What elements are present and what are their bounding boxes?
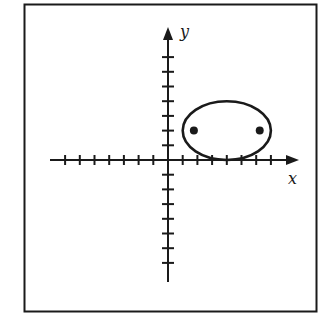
x-axis-label: x [288, 169, 297, 188]
y-axis-label: y [179, 22, 190, 41]
focus-point-right [256, 127, 264, 135]
frame-border [25, 5, 317, 312]
x-axis-arrow-icon [286, 155, 299, 165]
ellipse-diagram: x y [0, 0, 331, 319]
focus-point-left [190, 127, 198, 135]
y-axis-arrow-icon [163, 27, 173, 40]
